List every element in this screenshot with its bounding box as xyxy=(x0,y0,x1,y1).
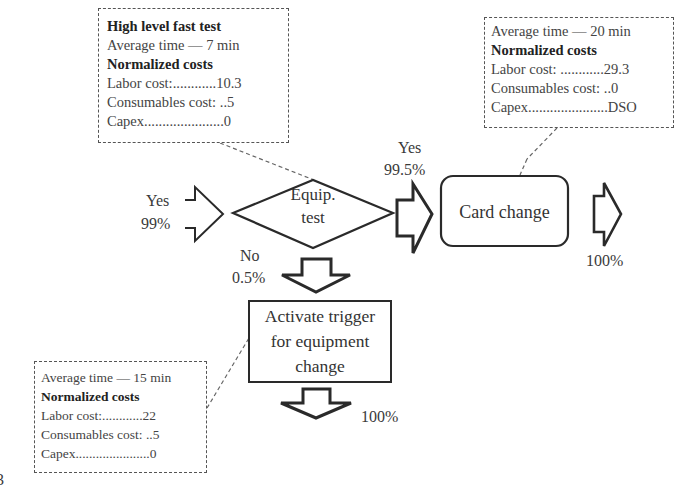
activate-trigger-label: Activate trigger for equipment change xyxy=(249,304,391,379)
leader-line-equip-test xyxy=(220,143,314,180)
note-costs-heading: Normalized costs xyxy=(107,55,280,74)
no-arrow-icon xyxy=(282,259,350,292)
note-labor-cost: Labor cost: ............29.3 xyxy=(491,60,665,79)
note-activate-trigger: Average time — 15 min Normalized costs L… xyxy=(34,361,207,473)
decision-label: Equip. test xyxy=(263,183,363,229)
leader-line-activate xyxy=(207,338,249,408)
leader-line-card-change-b xyxy=(520,159,527,175)
decision-label-line2: test xyxy=(263,206,363,229)
yes-arrow-icon xyxy=(397,184,432,253)
note-costs-heading: Normalized costs xyxy=(491,41,665,60)
activate-label-line3: change xyxy=(249,354,391,379)
note-average-time: Average time — 7 min xyxy=(107,36,280,55)
decision-label-line1: Equip. xyxy=(263,183,363,206)
note-capex: Capex......................DSO xyxy=(491,98,665,117)
figure-number-fragment: 3 xyxy=(0,470,4,490)
card-output-arrow-icon xyxy=(594,183,621,246)
note-costs-heading: Normalized costs xyxy=(41,387,198,406)
note-labor-cost: Labor cost:............22 xyxy=(41,406,198,425)
input-flow-pct: 99% xyxy=(141,214,170,234)
note-equip-test: High level fast test Average time — 7 mi… xyxy=(98,8,289,143)
input-flow-label: Yes xyxy=(146,191,169,211)
note-average-time: Average time — 20 min xyxy=(491,22,665,41)
note-consumables-cost: Consumables cost: ..5 xyxy=(107,93,280,112)
note-consumables-cost: Consumables cost: ..0 xyxy=(491,79,665,98)
no-flow-label: No xyxy=(240,246,260,266)
note-capex: Capex......................0 xyxy=(107,112,280,131)
note-average-time: Average time — 15 min xyxy=(41,368,198,387)
note-labor-cost: Labor cost:............10.3 xyxy=(107,74,280,93)
note-card-change: Average time — 20 min Normalized costs L… xyxy=(484,17,674,128)
trigger-output-arrow-icon xyxy=(281,389,351,418)
activate-label-line2: for equipment xyxy=(249,329,391,354)
trigger-output-pct: 100% xyxy=(361,407,398,427)
input-arrow-icon xyxy=(185,187,223,241)
card-output-pct: 100% xyxy=(586,251,623,271)
yes-flow-pct: 99.5% xyxy=(384,160,425,180)
note-title: High level fast test xyxy=(107,17,280,36)
yes-flow-label: Yes xyxy=(398,138,421,158)
note-capex: Capex......................0 xyxy=(41,444,198,463)
no-flow-pct: 0.5% xyxy=(232,268,265,288)
card-change-label: Card change xyxy=(441,200,568,224)
note-consumables-cost: Consumables cost: ..5 xyxy=(41,425,198,444)
leader-line-card-change-a xyxy=(527,128,557,159)
activate-label-line1: Activate trigger xyxy=(249,304,391,329)
